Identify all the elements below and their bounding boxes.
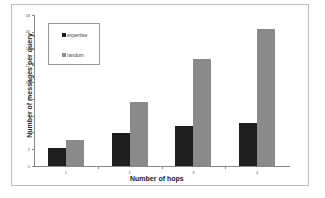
legend-label: expertise bbox=[67, 32, 87, 38]
y-tick-label: 18 bbox=[20, 13, 30, 18]
x-tick-label: 1 bbox=[61, 170, 71, 175]
x-tick-label: 4 bbox=[252, 170, 262, 175]
x-tick-mark bbox=[98, 166, 99, 169]
y-tick-mark bbox=[32, 166, 35, 167]
legend: expertise random bbox=[48, 23, 100, 65]
y-tick-label: 12 bbox=[20, 63, 30, 68]
x-tick-label: 3 bbox=[188, 170, 198, 175]
legend-swatch-expertise bbox=[62, 33, 66, 37]
y-tick-label: 4 bbox=[20, 130, 30, 135]
y-tick-label: 10 bbox=[20, 80, 30, 85]
y-tick-label: 6 bbox=[20, 113, 30, 118]
bar-expertise-hop-2 bbox=[112, 133, 130, 166]
legend-swatch-random bbox=[62, 53, 66, 57]
x-axis-title: Number of hops bbox=[130, 175, 184, 182]
y-tick-label: 2 bbox=[20, 147, 30, 152]
x-tick-mark bbox=[225, 166, 226, 169]
bar-random-hop-2 bbox=[130, 102, 148, 166]
bar-expertise-hop-1 bbox=[48, 148, 66, 166]
bar-random-hop-3 bbox=[193, 59, 211, 166]
bar-random-hop-1 bbox=[66, 140, 84, 166]
y-tick-label: 0 bbox=[20, 164, 30, 169]
bar-random-hop-4 bbox=[257, 29, 275, 166]
y-tick-label: 8 bbox=[20, 96, 30, 101]
legend-label: random bbox=[67, 52, 84, 58]
bar-expertise-hop-4 bbox=[239, 123, 257, 166]
x-tick-label: 2 bbox=[125, 170, 135, 175]
legend-item-random: random bbox=[62, 52, 84, 58]
x-tick-mark bbox=[162, 166, 163, 169]
legend-item-expertise: expertise bbox=[62, 32, 87, 38]
y-tick-label: 14 bbox=[20, 46, 30, 51]
bar-expertise-hop-3 bbox=[175, 126, 193, 166]
y-tick-label: 16 bbox=[20, 29, 30, 34]
